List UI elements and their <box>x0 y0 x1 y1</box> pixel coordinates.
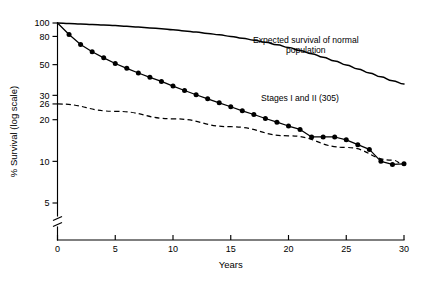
data-point-marker <box>124 66 129 71</box>
series-2 <box>58 104 405 164</box>
data-point-marker <box>113 61 118 66</box>
data-point-marker <box>286 124 291 129</box>
chart-canvas: 1008050302620105051015202530Years% Survi… <box>0 0 425 282</box>
data-point-marker <box>217 100 222 105</box>
y-tick-label: 10 <box>39 157 49 167</box>
data-point-marker <box>101 55 106 60</box>
data-point-marker <box>390 162 395 167</box>
data-point-marker <box>251 112 256 117</box>
data-point-marker <box>136 71 141 76</box>
x-tick-label: 25 <box>341 244 351 254</box>
x-tick-label: 10 <box>168 244 178 254</box>
series-line <box>58 23 405 84</box>
data-point-marker <box>274 120 279 125</box>
chart-annotations: Expected survival of normalpopulationSta… <box>253 35 359 103</box>
data-point-marker <box>355 142 360 147</box>
y-tick-label: 80 <box>39 32 49 42</box>
series-line <box>58 104 405 164</box>
data-point-marker <box>298 127 303 132</box>
data-point-marker <box>182 88 187 93</box>
y-tick-label: 50 <box>39 60 49 70</box>
x-axis-title: Years <box>219 259 243 270</box>
y-tick-label: 100 <box>34 18 49 28</box>
x-tick-label: 20 <box>283 244 293 254</box>
data-point-marker <box>367 147 372 152</box>
x-axis-ticks: 051015202530 <box>55 235 409 254</box>
y-tick-label: 20 <box>39 115 49 125</box>
survival-chart: 1008050302620105051015202530Years% Survi… <box>0 0 425 282</box>
data-point-marker <box>171 84 176 89</box>
series-0 <box>58 23 405 84</box>
data-point-marker <box>263 116 268 121</box>
data-point-marker <box>194 92 199 97</box>
data-point-marker <box>240 108 245 113</box>
data-point-marker <box>159 79 164 84</box>
data-point-marker <box>205 96 210 101</box>
data-point-marker <box>344 137 349 142</box>
x-tick-label: 15 <box>226 244 236 254</box>
y-tick-label: 26 <box>39 99 49 109</box>
data-point-marker <box>147 75 152 80</box>
y-axis-title: % Survival (log scale) <box>8 86 19 177</box>
x-tick-label: 5 <box>113 244 118 254</box>
annotation-label-1: Stages I and II (305) <box>261 93 339 103</box>
y-tick-label: 5 <box>44 198 49 208</box>
data-point-marker <box>321 134 326 139</box>
data-point-marker <box>67 32 72 37</box>
y-axis-ticks: 1008050302620105 <box>34 18 57 208</box>
y-axis-break-icon <box>53 217 62 227</box>
x-tick-label: 0 <box>55 244 60 254</box>
data-point-marker <box>78 42 83 47</box>
data-point-marker <box>90 49 95 54</box>
data-point-marker <box>332 134 337 139</box>
x-tick-label: 30 <box>399 244 409 254</box>
annotation-label-0: Expected survival of normalpopulation <box>253 35 359 56</box>
data-point-marker <box>228 104 233 109</box>
